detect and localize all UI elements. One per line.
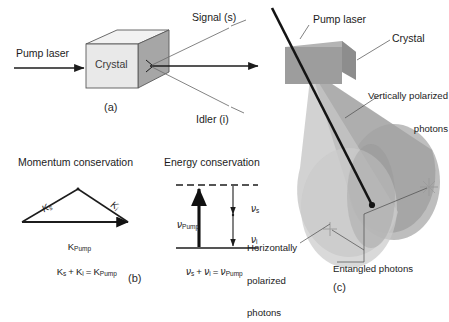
vertical-photons-label: Vertically polarized photons — [358, 70, 448, 156]
eq-nu-sub-pump: Pump — [226, 270, 243, 277]
horizontal-photons-line2: polarized — [247, 276, 297, 287]
energy-heading: Energy conservation — [164, 157, 260, 169]
panel-a-graphics — [14, 28, 258, 106]
idler-ray — [152, 67, 229, 106]
panel-a-id: (a) — [104, 101, 117, 113]
pump-laser-label-c: Pump laser — [313, 14, 366, 26]
cone-overlap-region — [347, 144, 395, 248]
intermediate-dot — [232, 214, 234, 216]
triangle-apex — [77, 188, 80, 191]
leader-idler — [231, 107, 244, 113]
vertical-photons-line2: photons — [358, 124, 448, 135]
momentum-equation: Ks+Ki=KPump — [46, 256, 117, 288]
eq-plus: + — [66, 266, 76, 277]
signal-label: Signal (s) — [192, 12, 236, 24]
leader-crystal-c — [357, 40, 390, 60]
eq-nu-plus: + — [194, 266, 204, 277]
k-pump-subscript: Pump — [74, 245, 91, 252]
eq-equals: = — [84, 266, 94, 277]
pump-laser-label-a: Pump laser — [16, 48, 69, 60]
vertical-photons-line1: Vertically polarized — [358, 91, 448, 102]
beam-endpoint-dot — [369, 202, 375, 208]
panel-c-id: (c) — [333, 281, 346, 293]
leader-pump-laser-c — [300, 25, 309, 39]
crystal-label-c: Crystal — [392, 33, 425, 45]
panel-b-id: (b) — [128, 272, 141, 284]
nu-pump-label: νPump — [166, 209, 199, 241]
horizontal-photons-line3: photons — [247, 308, 297, 319]
eq-sub-pump: Pump — [100, 270, 117, 277]
horizontal-photons-line1: Horizontally — [247, 243, 297, 254]
eq-nu-equals: = — [211, 266, 221, 277]
crystal-label-a: Crystal — [95, 59, 128, 71]
idler-label: Idler (i) — [196, 114, 229, 126]
nu-signal-subscript: s — [256, 207, 259, 214]
crystal-c-side — [342, 41, 356, 80]
entangled-photons-label: Entangled photons — [333, 264, 413, 275]
nu-signal-label: νs — [240, 193, 259, 225]
momentum-heading: Momentum conservation — [18, 157, 133, 169]
horizontal-photons-label: Horizontally polarized photons — [247, 222, 297, 322]
nu-pump-subscript: Pump — [182, 223, 199, 230]
energy-equation: νs+νi=νPump — [175, 256, 243, 288]
